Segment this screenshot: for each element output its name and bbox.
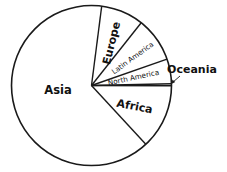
pie-chart: Asia Europe Latin America North America … (0, 0, 227, 172)
slice-label-asia: Asia (44, 83, 71, 97)
callout-label-oceania: Oceania (167, 63, 217, 76)
callout-arrow-icon (172, 76, 181, 84)
